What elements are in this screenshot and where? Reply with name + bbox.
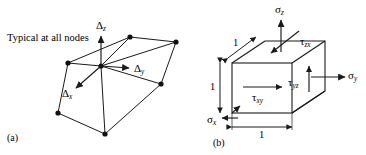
dim-bottom-width-label: 1 bbox=[259, 130, 264, 141]
node-top-mid bbox=[127, 34, 132, 39]
tau-zx-label: τzx bbox=[300, 36, 310, 49]
polyhedron-edge-center-right-mid bbox=[101, 66, 161, 84]
figure-drawing bbox=[0, 0, 366, 155]
node-left-lower bbox=[55, 110, 60, 115]
cube-edge-bottom-right-depth bbox=[292, 91, 325, 113]
figure-container: Typical at all nodes Δz Δy Δx (a) σz σy … bbox=[0, 0, 366, 155]
panel-a-caption: (a) bbox=[7, 133, 18, 143]
node-bottom-mid bbox=[102, 131, 107, 136]
tau-zx-arrow bbox=[271, 31, 299, 53]
sigma-x-label: σx bbox=[207, 114, 216, 127]
delta-x-arrow bbox=[76, 66, 101, 88]
sigma-y-label: σy bbox=[348, 70, 357, 83]
node-right-top bbox=[173, 39, 178, 44]
panel-b-caption: (b) bbox=[213, 138, 225, 148]
tau-yz-label: τyz bbox=[288, 77, 298, 90]
node-left-upper bbox=[65, 60, 70, 65]
polyhedron-edge-center-bottom bbox=[101, 66, 105, 134]
typical-at-all-nodes-note: Typical at all nodes bbox=[7, 33, 89, 44]
sigma-z-label: σz bbox=[275, 4, 284, 17]
panel-b-stress-arrows bbox=[222, 20, 345, 118]
panel-a-polyhedron bbox=[58, 37, 176, 134]
cube-front-face bbox=[232, 63, 292, 113]
panel-a-displacement-vectors bbox=[76, 36, 129, 88]
sigma-x-diagonal-tick bbox=[232, 106, 240, 113]
delta-x-label: Δx bbox=[62, 88, 72, 101]
delta-y-label: Δy bbox=[134, 63, 144, 76]
tau-xy-label: τxy bbox=[252, 92, 263, 105]
dim-left-height-label: 1 bbox=[210, 82, 215, 93]
delta-z-label: Δz bbox=[96, 20, 106, 33]
node-right-mid bbox=[158, 81, 163, 86]
polyhedron-outline bbox=[58, 37, 176, 134]
polyhedron-edge-center-left bbox=[68, 63, 101, 66]
dim-top-depth-label: 1 bbox=[233, 38, 238, 49]
